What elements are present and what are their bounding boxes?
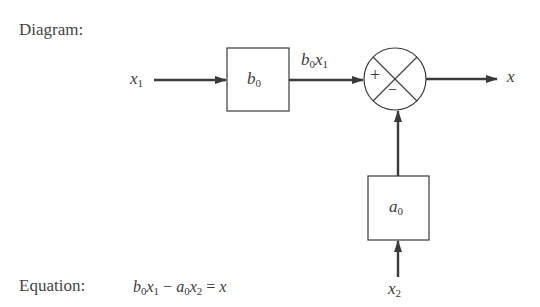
b0x1-label: b0x1 [301,50,328,70]
x2-label: x2 [388,279,401,299]
minus-sign: − [388,81,397,99]
equation-text: b0x1 − a0x2 = x [133,278,226,297]
x1-label: x1 [130,69,143,89]
equation-label: Equation: [19,276,85,296]
plus-sign: + [370,65,380,86]
block-diagram [0,0,540,307]
x-output-label: x [507,67,515,87]
a0-label: a0 [389,197,403,217]
b0-label: b0 [247,69,261,89]
